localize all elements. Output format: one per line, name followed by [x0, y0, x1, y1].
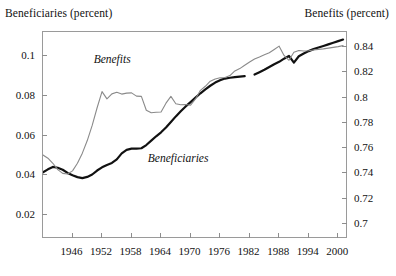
left-tick-mark	[42, 174, 47, 175]
left-tick-label: 0.04	[0, 168, 35, 180]
x-tick-mark	[160, 233, 161, 238]
left-tick-label: 0.08	[0, 89, 35, 101]
right-tick-mark	[342, 122, 347, 123]
right-tick-label: 0.84	[354, 40, 373, 52]
right-tick-mark	[342, 223, 347, 224]
right-tick-mark	[342, 71, 347, 72]
right-tick-mark	[342, 97, 347, 98]
right-tick-mark	[342, 147, 347, 148]
right-tick-label: 0.7	[354, 217, 368, 229]
chart-figure: Beneficiaries (percent) Benefits (percen…	[0, 0, 396, 276]
left-axis-title: Beneficiaries (percent)	[5, 7, 112, 19]
series-line-beneficiaries	[255, 40, 344, 75]
left-tick-label: 0.06	[0, 129, 35, 141]
x-tick-label: 1988	[267, 245, 289, 257]
right-tick-mark	[342, 172, 347, 173]
x-tick-mark	[190, 233, 191, 238]
left-tick-label: 0.1	[0, 49, 35, 61]
left-tick-mark	[42, 55, 47, 56]
x-tick-mark	[131, 233, 132, 238]
right-tick-mark	[342, 46, 347, 47]
x-tick-mark	[337, 233, 338, 238]
x-tick-mark	[308, 233, 309, 238]
x-tick-label: 1964	[149, 245, 171, 257]
left-tick-mark	[42, 95, 47, 96]
left-tick-mark	[42, 135, 47, 136]
x-tick-label: 1946	[61, 245, 83, 257]
x-tick-label: 1976	[208, 245, 230, 257]
series-line-beneficiaries	[43, 76, 245, 178]
x-tick-mark	[249, 233, 250, 238]
right-tick-label: 0.78	[354, 116, 373, 128]
x-tick-label: 2000	[326, 245, 348, 257]
x-tick-label: 1970	[179, 245, 201, 257]
x-tick-mark	[72, 233, 73, 238]
x-tick-mark	[219, 233, 220, 238]
right-tick-label: 0.72	[354, 192, 373, 204]
x-tick-label: 1982	[238, 245, 260, 257]
left-tick-mark	[42, 214, 47, 215]
plot-lines	[43, 32, 348, 239]
right-tick-label: 0.8	[354, 91, 368, 103]
left-tick-label: 0.02	[0, 208, 35, 220]
right-tick-mark	[342, 198, 347, 199]
right-tick-label: 0.76	[354, 141, 373, 153]
series-label-benefits: Benefits	[94, 53, 131, 65]
right-tick-label: 0.82	[354, 65, 373, 77]
right-tick-label: 0.74	[354, 166, 373, 178]
series-label-beneficiaries: Beneficiaries	[148, 152, 209, 164]
plot-area	[42, 31, 347, 238]
x-tick-label: 1994	[297, 245, 319, 257]
x-tick-label: 1952	[90, 245, 112, 257]
x-tick-mark	[101, 233, 102, 238]
right-axis-title: Benefits (percent)	[305, 7, 390, 19]
x-tick-mark	[278, 233, 279, 238]
x-tick-label: 1958	[120, 245, 142, 257]
